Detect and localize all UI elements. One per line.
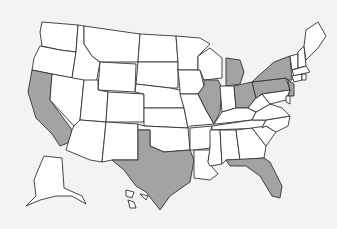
state-ia (178, 70, 204, 94)
us-map (0, 0, 337, 229)
state-sd (136, 62, 178, 88)
state-de (286, 96, 290, 104)
state-in (220, 86, 236, 112)
state-wy (98, 62, 136, 92)
state-nd (138, 34, 178, 62)
state-ks (144, 108, 188, 128)
state-ri (302, 74, 306, 80)
state-co (106, 92, 144, 122)
state-ar (190, 126, 212, 150)
state-nm (102, 122, 138, 162)
